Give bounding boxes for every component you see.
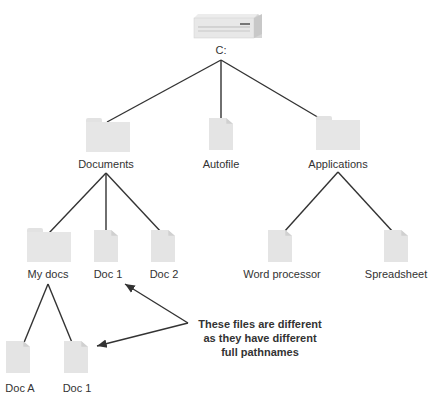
doc1-label: Doc 1 bbox=[94, 268, 123, 280]
mydocs-doc1-label: Doc 1 bbox=[63, 382, 92, 394]
annotation-note: These files are different as they have d… bbox=[190, 317, 330, 359]
hard-drive-icon[interactable] bbox=[192, 12, 262, 40]
document-icon[interactable] bbox=[64, 341, 88, 373]
annotation-line-3: full pathnames bbox=[190, 345, 330, 359]
documents-label: Documents bbox=[78, 158, 134, 170]
document-icon[interactable] bbox=[268, 230, 292, 262]
document-icon[interactable] bbox=[151, 230, 175, 262]
autofile-label: Autofile bbox=[203, 158, 240, 170]
folder-icon[interactable] bbox=[316, 116, 360, 150]
annotation-line-1: These files are different bbox=[190, 317, 330, 331]
document-icon[interactable] bbox=[6, 341, 30, 373]
folder-icon[interactable] bbox=[86, 118, 130, 152]
document-icon[interactable] bbox=[209, 118, 233, 150]
annotation-line-2: as they have different bbox=[190, 331, 330, 345]
doca-label: Doc A bbox=[5, 382, 34, 394]
document-icon[interactable] bbox=[94, 230, 118, 262]
document-icon[interactable] bbox=[384, 230, 408, 262]
root-label: C: bbox=[216, 44, 227, 56]
word-processor-label: Word processor bbox=[243, 268, 320, 280]
spreadsheet-label: Spreadsheet bbox=[365, 268, 427, 280]
folder-icon[interactable] bbox=[27, 228, 71, 262]
applications-label: Applications bbox=[308, 158, 367, 170]
doc2-label: Doc 2 bbox=[150, 268, 179, 280]
mydocs-label: My docs bbox=[28, 268, 69, 280]
